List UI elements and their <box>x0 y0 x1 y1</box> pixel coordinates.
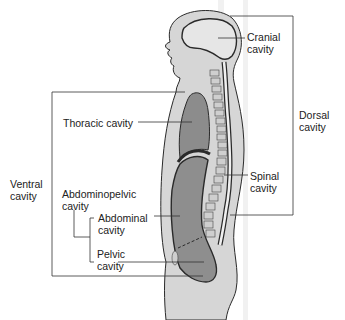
label-dorsal-cavity: Dorsal cavity <box>299 109 329 133</box>
label-pelvic-cavity: Pelvic cavity <box>97 248 125 272</box>
body-illustration <box>0 0 345 320</box>
label-cranial-cavity: Cranial cavity <box>247 31 280 55</box>
pubic-bone <box>172 251 178 265</box>
label-abdominopelvic-cavity: Abdominopelvic cavity <box>62 188 136 212</box>
body-cavities-diagram: Cranial cavity Thoracic cavity Dorsal ca… <box>0 0 345 320</box>
label-spinal-cavity: Spinal cavity <box>250 170 279 194</box>
abdominopelvic-bracket <box>74 210 90 237</box>
label-abdominal-cavity: Abdominal cavity <box>98 212 148 236</box>
label-thoracic-cavity: Thoracic cavity <box>63 117 133 129</box>
abdominal-pelvic-bracket <box>90 218 94 262</box>
label-ventral-cavity: Ventral cavity <box>10 178 43 202</box>
